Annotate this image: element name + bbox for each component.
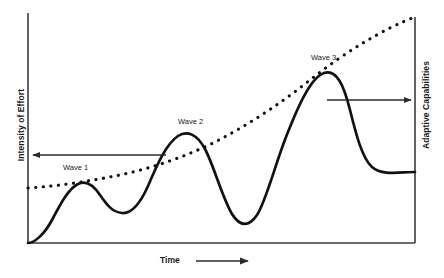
- annotation-wave-1: Wave 1: [63, 163, 88, 172]
- y-axis-left-title: Intensity of Effort: [16, 60, 26, 190]
- intensity-of-effort-curve: [28, 72, 415, 243]
- y-axis-right-title: Adaptive Capabilities: [421, 40, 431, 170]
- chart-canvas: [0, 0, 444, 278]
- annotation-wave-2: Wave 2: [178, 117, 203, 126]
- x-axis-title: Time: [160, 255, 180, 265]
- waves-of-change-chart: Intensity of Effort Adaptive Capabilitie…: [0, 0, 444, 278]
- x-axis-title-group: Time: [160, 255, 180, 265]
- annotation-wave-3: Wave 3: [311, 53, 336, 62]
